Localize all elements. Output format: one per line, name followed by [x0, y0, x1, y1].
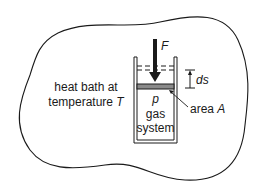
force-label: F: [161, 39, 169, 53]
area-var: A: [216, 102, 225, 116]
force-arrow-icon: [149, 39, 161, 82]
piston: [137, 84, 174, 89]
displacement-bracket: [185, 70, 195, 88]
area-leader: [169, 90, 188, 107]
temperature-var: T: [116, 95, 125, 109]
heat-bath-label-line2: temperature T: [48, 95, 125, 109]
pressure-label: p: [151, 92, 159, 106]
displacement-label: ds: [196, 73, 209, 87]
diagram-canvas: F ds area A p gas system heat bath at te…: [0, 0, 261, 193]
area-label: area A: [190, 102, 225, 116]
heat-bath-label-line1: heat bath at: [54, 80, 118, 94]
heat-bath-label-prefix: temperature: [48, 95, 116, 109]
system-label-line2: system: [136, 121, 174, 135]
system-label-line1: gas: [146, 107, 165, 121]
area-prefix: area: [190, 102, 217, 116]
